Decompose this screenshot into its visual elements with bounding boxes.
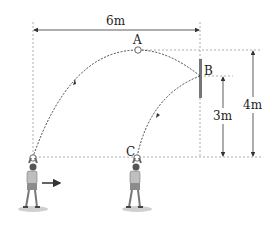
width-label: 6m [106, 14, 126, 28]
ball-at-a [135, 47, 141, 53]
height-b-label: 3m [213, 109, 233, 123]
direction-arrow-icon [156, 113, 160, 118]
player-catcher [122, 155, 152, 212]
guide-lines [33, 22, 262, 157]
point-b-label: B [204, 64, 213, 78]
trajectory-ab-to-thrower [33, 50, 200, 157]
projectile-diagram: 6m A B C 3m 4m [0, 0, 276, 228]
trajectory-b-to-c [137, 76, 200, 157]
wall [199, 59, 202, 98]
point-a-label: A [132, 33, 142, 47]
height-a-label: 4m [243, 98, 263, 112]
